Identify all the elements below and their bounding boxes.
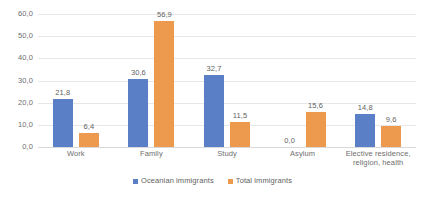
y-axis-tick-label: 0,0 xyxy=(22,143,33,151)
gridline xyxy=(38,147,416,148)
bar[interactable]: 11,5 xyxy=(230,122,250,147)
legend-item[interactable]: Oceanian immigrants xyxy=(133,177,214,185)
bar[interactable]: 56,9 xyxy=(154,21,174,147)
bar-chart: 60,050,040,030,020,010,00,0 21,86,430,65… xyxy=(0,0,425,201)
y-axis-tick-label: 20,0 xyxy=(18,99,33,107)
bar-group: 21,86,4 xyxy=(38,14,114,147)
legend-item[interactable]: Total immigrants xyxy=(228,177,292,185)
legend-label: Oceanian immigrants xyxy=(141,177,214,185)
y-axis-tick-label: 60,0 xyxy=(18,10,33,18)
x-axis-category-label: Elective residence, religion, health xyxy=(340,149,416,175)
bar-value-label: 15,6 xyxy=(308,102,323,110)
bar[interactable]: 14,8 xyxy=(355,114,375,147)
bar-value-label: 9,6 xyxy=(386,116,397,124)
bar-group: 14,89,6 xyxy=(340,14,416,147)
y-axis: 60,050,040,030,020,010,00,0 xyxy=(0,14,36,147)
y-axis-tick-label: 50,0 xyxy=(18,32,33,40)
x-axis-category-label: Family xyxy=(114,149,190,175)
bar-value-label: 11,5 xyxy=(233,112,247,120)
bar-value-label: 6,4 xyxy=(83,123,94,131)
bar-value-label: 56,9 xyxy=(157,11,172,19)
y-axis-tick-label: 40,0 xyxy=(18,54,33,62)
bar[interactable]: 15,6 xyxy=(306,112,326,147)
bar-group: 0,015,6 xyxy=(265,14,341,147)
y-axis-tick-label: 30,0 xyxy=(18,77,33,85)
chart-legend: Oceanian immigrantsTotal immigrants xyxy=(0,177,425,185)
bar[interactable]: 32,7 xyxy=(204,75,224,147)
bar-value-label: 32,7 xyxy=(206,65,221,73)
bar-group: 32,711,5 xyxy=(189,14,265,147)
bar[interactable]: 21,8 xyxy=(53,99,73,147)
x-axis-category-label: Work xyxy=(38,149,114,175)
plot-area: 21,86,430,656,932,711,50,015,614,89,6 xyxy=(38,14,416,147)
bar[interactable]: 6,4 xyxy=(79,133,99,147)
bar-group: 30,656,9 xyxy=(114,14,190,147)
bar-value-label: 14,8 xyxy=(358,104,373,112)
bar-value-label: 0,0 xyxy=(284,137,295,145)
bar-value-label: 21,8 xyxy=(55,89,70,97)
x-axis-category-label: Study xyxy=(189,149,265,175)
bar[interactable]: 30,6 xyxy=(128,79,148,147)
legend-label: Total immigrants xyxy=(236,177,292,185)
y-axis-tick-label: 10,0 xyxy=(18,121,33,129)
bar-value-label: 30,6 xyxy=(131,69,146,77)
legend-swatch-icon xyxy=(228,179,233,184)
bar-groups: 21,86,430,656,932,711,50,015,614,89,6 xyxy=(38,14,416,147)
x-axis-category-label: Asylum xyxy=(265,149,341,175)
x-axis: WorkFamilyStudyAsylumElective residence,… xyxy=(38,149,416,175)
bar[interactable]: 9,6 xyxy=(381,126,401,147)
legend-swatch-icon xyxy=(133,179,138,184)
